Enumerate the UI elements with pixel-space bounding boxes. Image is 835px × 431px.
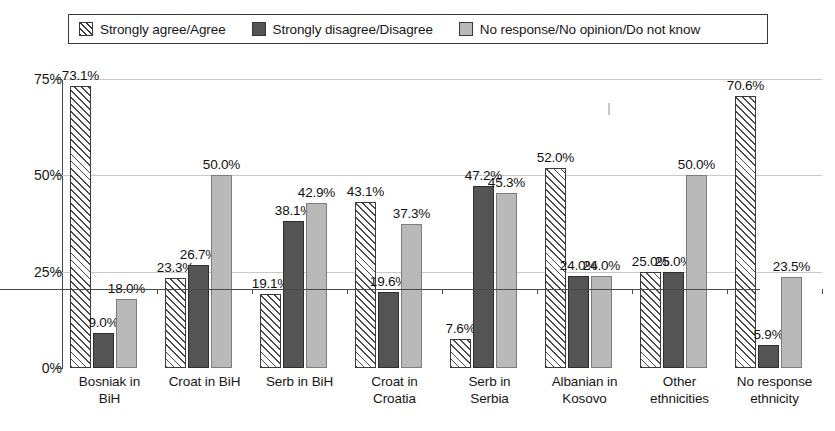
- hatch-diagonal-icon: [79, 22, 93, 36]
- bar-group: 25.0%25.0%50.0%: [632, 79, 727, 368]
- bar-value-label: 73.1%: [54, 68, 108, 83]
- legend-item-agree: Strongly agree/Agree: [79, 22, 226, 37]
- bar-value-label: 24.0%: [575, 258, 629, 273]
- x-axis-label-line: Serbia: [442, 391, 537, 408]
- x-axis-label-line: Albanian in: [537, 374, 632, 391]
- bar[interactable]: [306, 203, 327, 368]
- bar-chart: Strongly agree/Agree Strongly disagree/D…: [0, 0, 835, 431]
- bar-group: 70.6%5.9%23.5%: [727, 79, 822, 368]
- bar-group: 73.1%9.0%18.0%: [62, 79, 157, 368]
- bar[interactable]: [686, 175, 707, 368]
- group-separator: [442, 289, 443, 294]
- group-separator: [252, 289, 253, 294]
- bar[interactable]: [450, 339, 471, 368]
- bar-value-label: 50.0%: [195, 157, 249, 172]
- group-separator: [822, 289, 823, 294]
- bar-value-label: 42.9%: [290, 185, 344, 200]
- plot-area: 73.1%9.0%18.0%23.3%26.7%50.0%19.1%38.1%4…: [62, 79, 822, 368]
- x-axis-label: Serb in BiH: [252, 374, 347, 391]
- bar-group: 43.1%19.6%37.3%: [347, 79, 442, 368]
- legend-label-agree: Strongly agree/Agree: [100, 22, 226, 37]
- legend-item-disagree: Strongly disagree/Disagree: [252, 22, 433, 37]
- bar[interactable]: [93, 333, 114, 368]
- group-separator: [727, 289, 728, 294]
- x-axis-label: Bosniak inBiH: [62, 374, 157, 407]
- bar-value-label: 37.3%: [385, 206, 439, 221]
- bar[interactable]: [473, 186, 494, 368]
- bar-value-label: 43.1%: [339, 184, 393, 199]
- x-axis-label-line: ethnicity: [727, 391, 822, 408]
- x-axis-label-line: ethnicities: [632, 391, 727, 408]
- bar[interactable]: [640, 272, 661, 368]
- x-axis-label-line: Croat in: [347, 374, 442, 391]
- x-axis-label-line: Serb in BiH: [252, 374, 347, 391]
- bar-value-label: 23.5%: [765, 259, 819, 274]
- x-axis-label: Croat inCroatia: [347, 374, 442, 407]
- x-axis-label-line: Serb in: [442, 374, 537, 391]
- x-axis-label: No responseethnicity: [727, 374, 822, 407]
- bar[interactable]: [758, 345, 779, 368]
- legend-label-disagree: Strongly disagree/Disagree: [273, 22, 433, 37]
- y-axis: 0%25%50%75%: [0, 79, 62, 369]
- solid-dark-icon: [252, 22, 266, 36]
- x-axis-line: [0, 289, 760, 290]
- bar[interactable]: [116, 299, 137, 368]
- bar[interactable]: [378, 292, 399, 368]
- legend-item-noresponse: No response/No opinion/Do not know: [459, 22, 700, 37]
- bar-group: 23.3%26.7%50.0%: [157, 79, 252, 368]
- bar[interactable]: [165, 278, 186, 368]
- group-separator: [537, 289, 538, 294]
- x-axis-label-line: Bosniak in: [62, 374, 157, 391]
- x-axis-label: Otherethnicities: [632, 374, 727, 407]
- bar[interactable]: [260, 294, 281, 368]
- bar-value-label: 45.3%: [480, 175, 534, 190]
- bar[interactable]: [283, 221, 304, 368]
- group-separator: [157, 289, 158, 294]
- x-axis-label-line: Croatia: [347, 391, 442, 408]
- x-axis-label-line: Other: [632, 374, 727, 391]
- x-axis-label-line: Croat in BiH: [157, 374, 252, 391]
- solid-light-icon: [459, 22, 473, 36]
- group-separator: [347, 289, 348, 294]
- bar-group: 7.6%47.2%45.3%: [442, 79, 537, 368]
- bar-value-label: 50.0%: [670, 157, 724, 172]
- chart-legend: Strongly agree/Agree Strongly disagree/D…: [68, 14, 768, 44]
- group-separator: [62, 289, 63, 294]
- x-axis-label: Croat in BiH: [157, 374, 252, 391]
- bar[interactable]: [188, 265, 209, 368]
- bar-value-label: 70.6%: [719, 78, 773, 93]
- x-axis-label: Serb inSerbia: [442, 374, 537, 407]
- bar-group: 52.0%24.0%24.0%: [537, 79, 632, 368]
- x-axis-label-line: BiH: [62, 391, 157, 408]
- bar[interactable]: [663, 272, 684, 368]
- x-axis-labels: Bosniak inBiHCroat in BiHSerb in BiHCroa…: [62, 374, 822, 420]
- x-axis-label-line: Kosovo: [537, 391, 632, 408]
- bar-value-label: 52.0%: [529, 150, 583, 165]
- scan-artifact: [608, 103, 610, 115]
- bar[interactable]: [781, 277, 802, 368]
- x-axis-label: Albanian inKosovo: [537, 374, 632, 407]
- x-axis-label-line: No response: [727, 374, 822, 391]
- legend-label-noresponse: No response/No opinion/Do not know: [480, 22, 700, 37]
- bar[interactable]: [211, 175, 232, 368]
- bar[interactable]: [496, 193, 517, 368]
- bar[interactable]: [401, 224, 422, 368]
- bar-group: 19.1%38.1%42.9%: [252, 79, 347, 368]
- group-separator: [632, 289, 633, 294]
